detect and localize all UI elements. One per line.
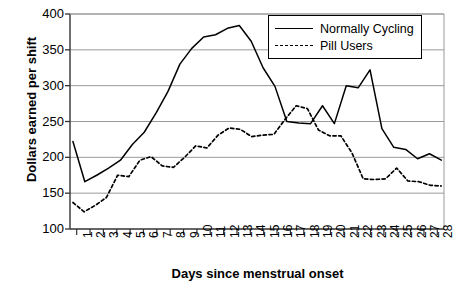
x-tick-label: 16 — [282, 225, 294, 238]
x-tick-label: 28 — [442, 225, 454, 238]
x-tick-label: 7 — [162, 231, 174, 238]
chart-figure: Dollars earned per shift 100150200250300… — [0, 0, 459, 288]
x-tick-label: 20 — [335, 225, 347, 238]
x-tick-label: 9 — [189, 231, 201, 238]
x-tick-label: 23 — [376, 225, 388, 238]
x-tick-label: 21 — [349, 225, 361, 238]
x-tick-label: 27 — [429, 225, 441, 238]
x-tick-label: 8 — [175, 231, 187, 238]
legend-item: Normally Cycling — [275, 20, 414, 37]
x-tick-label: 10 — [202, 225, 214, 238]
x-tick-label: 14 — [255, 225, 267, 238]
x-tick-label: 26 — [416, 225, 428, 238]
x-tick-label: 15 — [269, 225, 281, 238]
x-tick-label: 5 — [135, 231, 147, 238]
x-tick-label: 25 — [402, 225, 414, 238]
x-tick-label: 2 — [95, 231, 107, 238]
x-axis-label: Days since menstrual onset — [70, 266, 445, 281]
x-tick-label: 12 — [229, 225, 241, 238]
x-tick-label: 17 — [295, 225, 307, 238]
x-tick-label: 4 — [122, 231, 134, 238]
legend-label: Normally Cycling — [320, 22, 414, 36]
legend-label: Pill Users — [320, 39, 373, 53]
x-tick-label: 22 — [362, 225, 374, 238]
x-tick-label: 24 — [389, 225, 401, 238]
x-tick-label: 13 — [242, 225, 254, 238]
legend-line-dashed-icon — [275, 41, 313, 51]
x-tick-label: 19 — [322, 225, 334, 238]
chart-legend: Normally Cycling Pill Users — [268, 15, 422, 59]
x-tick-label: 6 — [148, 231, 160, 238]
x-tick-label: 18 — [309, 225, 321, 238]
x-tick-label: 1 — [82, 231, 94, 238]
legend-item: Pill Users — [275, 37, 414, 54]
x-tick-label: 11 — [215, 226, 227, 238]
x-tick-label: 3 — [108, 231, 120, 238]
legend-line-solid-icon — [275, 24, 313, 34]
